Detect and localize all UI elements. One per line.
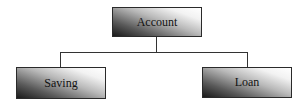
connector-right-drop (247, 52, 248, 67)
connector-horizontal (60, 52, 248, 53)
node-saving-label: Saving (44, 76, 77, 91)
connector-left-drop (60, 52, 61, 67)
node-loan-label: Loan (235, 75, 260, 90)
node-account-label: Account (137, 15, 178, 30)
node-saving: Saving (16, 67, 106, 99)
node-account: Account (112, 7, 202, 37)
connector-root-down (156, 37, 157, 53)
node-loan: Loan (202, 67, 292, 98)
